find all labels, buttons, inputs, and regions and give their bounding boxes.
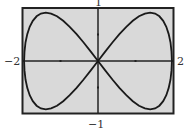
x-max-label: 2 xyxy=(177,56,184,67)
y-max-label: 1 xyxy=(95,0,102,8)
x-min-label: −2 xyxy=(4,56,20,67)
y-min-label: −1 xyxy=(88,119,104,130)
graph-screen xyxy=(0,0,190,137)
